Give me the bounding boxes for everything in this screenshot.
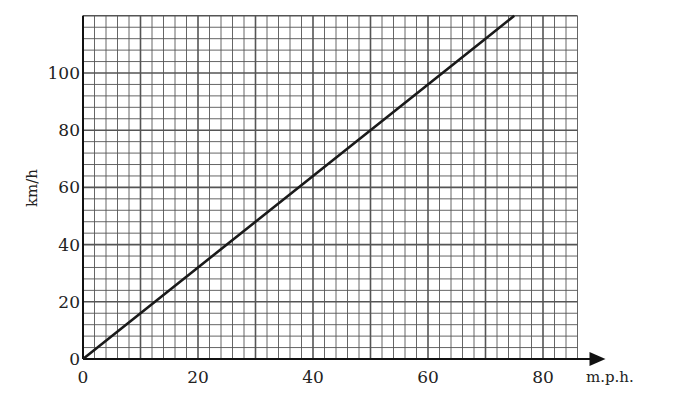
x-tick-label: 60 — [417, 367, 439, 387]
x-tick-labels: 020406080 — [78, 367, 554, 387]
x-tick-label: 20 — [187, 367, 209, 387]
x-axis-arrow-icon — [590, 352, 606, 366]
x-tick-label: 40 — [302, 367, 324, 387]
conversion-chart: 020406080 020406080100 m.p.h. km/h — [0, 0, 677, 398]
y-axis-label: km/h — [23, 169, 41, 207]
y-tick-label: 0 — [69, 349, 80, 369]
x-tick-label: 0 — [78, 367, 89, 387]
x-axis-label: m.p.h. — [586, 368, 634, 386]
y-tick-label: 80 — [58, 120, 80, 140]
y-tick-labels: 020406080100 — [48, 63, 80, 369]
grid — [83, 16, 578, 359]
y-tick-label: 20 — [58, 292, 80, 312]
y-tick-label: 60 — [58, 177, 80, 197]
y-tick-label: 100 — [48, 63, 80, 83]
x-tick-label: 80 — [532, 367, 554, 387]
y-tick-label: 40 — [58, 235, 80, 255]
